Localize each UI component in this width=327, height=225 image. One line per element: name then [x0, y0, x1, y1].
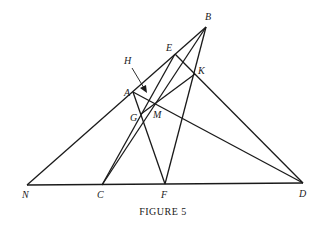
h-arrow-shaft — [132, 68, 144, 88]
segments — [27, 27, 303, 185]
figure-diagram: B E H K A G M N C F D FIGURE 5 — [0, 0, 327, 225]
label-C: C — [97, 189, 104, 200]
label-H: H — [123, 55, 132, 66]
segment-NB — [27, 27, 206, 185]
figure-caption: FIGURE 5 — [139, 206, 187, 217]
label-N: N — [21, 189, 30, 200]
segment-AF — [133, 92, 165, 184]
point-labels: B E H K A G M N C F D — [21, 11, 307, 200]
segment-AD — [133, 92, 303, 183]
label-A: A — [123, 87, 131, 98]
label-F: F — [160, 189, 168, 200]
label-G: G — [130, 112, 137, 123]
label-D: D — [298, 188, 307, 199]
segment-EC — [102, 54, 175, 185]
label-B: B — [205, 11, 211, 22]
label-E: E — [165, 42, 172, 53]
segment-BC — [102, 27, 206, 185]
segment-KG — [141, 74, 195, 114]
label-K: K — [197, 65, 206, 76]
h-arrowhead-icon — [140, 85, 147, 93]
segment-ED — [175, 54, 303, 183]
label-M: M — [152, 109, 162, 120]
